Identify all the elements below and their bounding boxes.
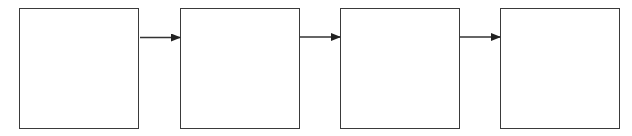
arrows-layer: [0, 0, 632, 136]
